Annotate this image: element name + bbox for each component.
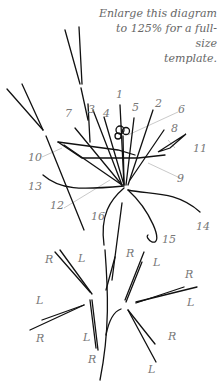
label-r: R bbox=[184, 268, 193, 281]
label-r: R bbox=[167, 330, 176, 343]
label-r: R bbox=[35, 332, 44, 345]
label-5: 5 bbox=[132, 101, 139, 114]
label-l: L bbox=[35, 294, 43, 307]
label-14: 14 bbox=[196, 220, 210, 233]
label-11: 11 bbox=[193, 142, 207, 155]
label-16: 16 bbox=[91, 210, 105, 223]
label-7: 7 bbox=[65, 107, 72, 120]
label-1: 1 bbox=[116, 88, 123, 101]
label-r: R bbox=[44, 253, 53, 266]
flower-strokes bbox=[7, 27, 200, 380]
label-15: 15 bbox=[162, 233, 176, 246]
label-4: 4 bbox=[102, 107, 110, 120]
label-9: 9 bbox=[177, 172, 184, 185]
label-6: 6 bbox=[178, 103, 185, 116]
side-labels: R L R L R L L R L R R L bbox=[35, 247, 194, 376]
label-l: L bbox=[186, 296, 194, 309]
label-3: 3 bbox=[88, 103, 95, 116]
label-8: 8 bbox=[171, 122, 178, 135]
label-l: L bbox=[147, 363, 155, 376]
label-r: R bbox=[125, 247, 134, 260]
label-12: 12 bbox=[50, 199, 64, 212]
label-l: L bbox=[77, 252, 85, 265]
label-2: 2 bbox=[154, 97, 162, 110]
label-l: L bbox=[152, 256, 160, 269]
flower-template-diagram: 1 2 3 4 5 6 7 8 9 10 11 12 13 14 15 16 R… bbox=[0, 0, 221, 391]
label-13: 13 bbox=[28, 180, 42, 193]
label-r: R bbox=[87, 353, 96, 366]
label-10: 10 bbox=[28, 151, 42, 164]
label-l: L bbox=[82, 331, 90, 344]
